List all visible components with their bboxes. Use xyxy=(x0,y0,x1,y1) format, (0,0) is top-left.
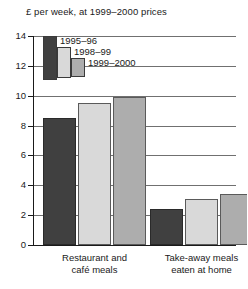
gridline-0 xyxy=(33,245,236,246)
y-tick-mark-0 xyxy=(28,245,34,246)
category-label-0-line1: Restaurant and xyxy=(35,252,155,264)
legend-swatch-1 xyxy=(57,47,71,78)
y-tick-label-10: 10 xyxy=(4,91,26,101)
y-tick-mark-2 xyxy=(28,215,34,216)
y-tick-label-12: 12 xyxy=(4,61,26,71)
y-tick-mark-4 xyxy=(28,185,34,186)
y-tick-mark-14 xyxy=(28,36,34,37)
bar-0-0 xyxy=(43,118,76,245)
legend-label-1: 1998–99 xyxy=(74,46,111,57)
y-tick-label-6: 6 xyxy=(4,150,26,160)
legend-label-0: 1995–96 xyxy=(60,35,97,46)
bar-1-0 xyxy=(150,209,183,245)
y-tick-mark-10 xyxy=(28,96,34,97)
y-tick-label-2: 2 xyxy=(4,210,26,220)
y-tick-label-14: 14 xyxy=(4,31,26,41)
chart-title: £ per week, at 1999–2000 prices xyxy=(26,6,167,17)
legend-swatch-2 xyxy=(71,58,85,77)
y-tick-mark-8 xyxy=(28,126,34,127)
y-tick-label-0: 0 xyxy=(4,240,26,250)
bar-1-1 xyxy=(185,199,218,245)
legend-swatch-0 xyxy=(43,36,57,80)
y-tick-label-8: 8 xyxy=(4,121,26,131)
y-tick-mark-6 xyxy=(28,155,34,156)
category-label-1-line2: eaten at home xyxy=(142,264,248,276)
bar-1-2 xyxy=(220,194,247,246)
y-tick-mark-12 xyxy=(28,66,34,67)
bar-0-2 xyxy=(113,97,146,245)
category-label-0-line2: café meals xyxy=(35,264,155,276)
y-tick-label-4: 4 xyxy=(4,180,26,190)
chart-legend: 1995–961998–991999–2000 xyxy=(43,36,173,88)
legend-label-2: 1999–2000 xyxy=(88,57,136,68)
category-label-0: Restaurant andcafé meals xyxy=(35,252,155,276)
category-label-1: Take-away mealseaten at home xyxy=(142,252,248,276)
bar-0-1 xyxy=(78,103,111,245)
y-axis-tick-labels: 02468101214 xyxy=(0,0,26,289)
category-label-1-line1: Take-away meals xyxy=(142,252,248,264)
bar-chart: £ per week, at 1999–2000 prices 02468101… xyxy=(0,0,247,289)
